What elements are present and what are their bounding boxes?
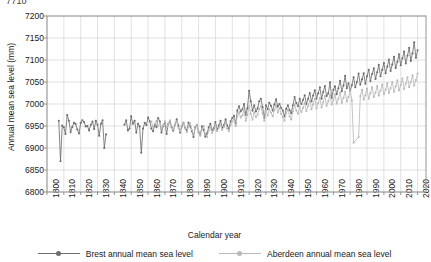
legend-line-swatch bbox=[38, 250, 80, 258]
legend-line-swatch bbox=[219, 250, 261, 258]
legend-item-brest[interactable]: Brest annual mean sea level bbox=[38, 249, 193, 259]
chart-legend: Brest annual mean sea levelAberdeen annu… bbox=[0, 245, 429, 262]
series-brest bbox=[58, 41, 419, 162]
legend-label: Aberdeen annual mean sea level bbox=[267, 249, 391, 259]
legend-item-aberdeen[interactable]: Aberdeen annual mean sea level bbox=[219, 249, 391, 259]
series-aberdeen bbox=[150, 73, 418, 144]
legend-label: Brest annual mean sea level bbox=[86, 249, 193, 259]
